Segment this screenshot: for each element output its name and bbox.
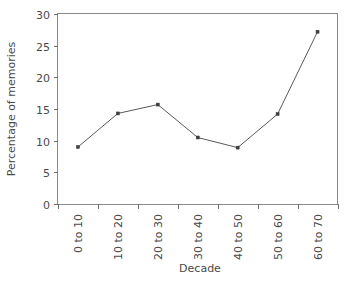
y-tick-label: 5 xyxy=(43,167,50,180)
chart-background xyxy=(0,0,345,284)
data-point-marker xyxy=(116,112,119,115)
y-tick-label: 0 xyxy=(43,199,50,212)
data-point-marker xyxy=(156,103,159,106)
x-tick-label: 40 to 50 xyxy=(232,214,245,260)
data-point-marker xyxy=(276,113,279,116)
y-tick-label: 10 xyxy=(36,136,50,149)
data-point-marker xyxy=(196,136,199,139)
y-tick-label: 25 xyxy=(36,41,50,54)
data-point-marker xyxy=(76,146,79,149)
data-point-marker xyxy=(236,146,239,149)
y-tick-label: 30 xyxy=(36,9,50,22)
x-tick-label: 10 to 20 xyxy=(112,214,125,260)
y-tick-label: 15 xyxy=(36,104,50,117)
y-axis-title: Percentage of memories xyxy=(5,41,18,176)
line-chart: 051015202530 0 to 1010 to 2020 to 3030 t… xyxy=(0,0,345,284)
y-tick-label: 20 xyxy=(36,72,50,85)
data-point-marker xyxy=(316,30,319,33)
x-tick-label: 60 to 70 xyxy=(312,214,325,260)
x-tick-label: 30 to 40 xyxy=(192,214,205,260)
chart-container: 051015202530 0 to 1010 to 2020 to 3030 t… xyxy=(0,0,345,284)
x-tick-label: 20 to 30 xyxy=(152,214,165,260)
x-tick-label: 0 to 10 xyxy=(72,214,85,253)
x-axis-title: Decade xyxy=(179,262,221,275)
x-tick-label: 50 to 60 xyxy=(272,214,285,260)
